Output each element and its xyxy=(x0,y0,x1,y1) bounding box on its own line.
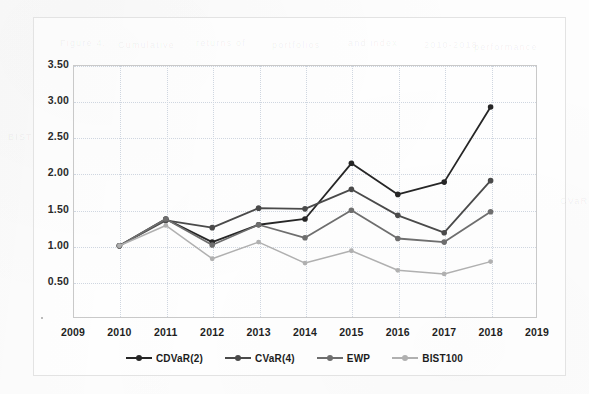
x-tick-label: 2010 xyxy=(107,326,131,338)
legend-item-cdvar-2[interactable]: CDVaR(2) xyxy=(126,353,203,364)
x-tick-label: 2014 xyxy=(293,326,317,338)
legend-item-ewp[interactable]: EWP xyxy=(317,353,370,364)
x-tick-label: 2018 xyxy=(479,326,503,338)
legend-item-label: CVaR(4) xyxy=(255,353,295,364)
legend-item-bist100[interactable]: BIST100 xyxy=(392,353,463,364)
scan-speck xyxy=(41,317,43,319)
legend-item-label: EWP xyxy=(347,353,370,364)
x-tick-label: 2011 xyxy=(154,326,178,338)
legend-item-label: BIST100 xyxy=(422,353,463,364)
x-tick-label: 2015 xyxy=(339,326,363,338)
scanned-page-background: Figure 4.Cumulativereturns ofportfoliosa… xyxy=(0,0,589,394)
x-tick-label: 2017 xyxy=(432,326,456,338)
x-axis-tick-labels: 2009201020112012201320142015201620172018… xyxy=(0,0,589,394)
x-tick-label: 2019 xyxy=(525,326,549,338)
chart-legend: CDVaR(2)CVaR(4)EWPBIST100 xyxy=(0,349,589,367)
legend-marker-icon xyxy=(402,355,408,361)
legend-marker-icon xyxy=(235,355,241,361)
x-tick-label: 2016 xyxy=(386,326,410,338)
legend-swatch-icon xyxy=(317,353,343,363)
x-tick-label: 2009 xyxy=(61,326,85,338)
x-tick-label: 2013 xyxy=(247,326,271,338)
legend-swatch-icon xyxy=(392,353,418,363)
legend-marker-icon xyxy=(327,355,333,361)
legend-item-label: CDVaR(2) xyxy=(156,353,203,364)
x-tick-label: 2012 xyxy=(200,326,224,338)
legend-swatch-icon xyxy=(126,353,152,363)
legend-swatch-icon xyxy=(225,353,251,363)
legend-marker-icon xyxy=(136,355,142,361)
legend-item-cvar-4[interactable]: CVaR(4) xyxy=(225,353,295,364)
